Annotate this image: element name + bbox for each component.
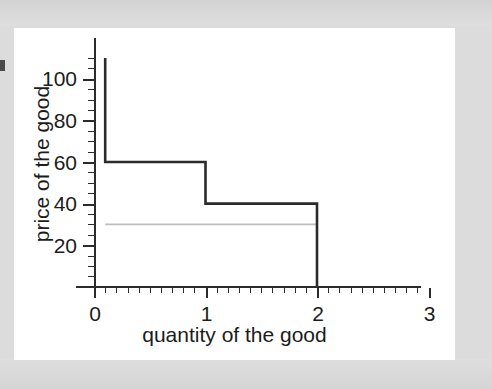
page-edge-artifact bbox=[0, 60, 5, 71]
figure-panel: 100 80 60 40 20 bbox=[14, 28, 455, 360]
demand-step-curve bbox=[105, 58, 317, 287]
scan-gradient-bottom bbox=[0, 359, 492, 389]
chart-curve-layer bbox=[14, 28, 455, 360]
plot-area: 100 80 60 40 20 bbox=[14, 28, 455, 360]
x-axis-title: quantity of the good bbox=[14, 324, 455, 346]
scan-gradient-top bbox=[0, 0, 492, 26]
y-axis-title: price of the good bbox=[31, 64, 53, 264]
scanned-page-background: 100 80 60 40 20 bbox=[0, 0, 492, 389]
